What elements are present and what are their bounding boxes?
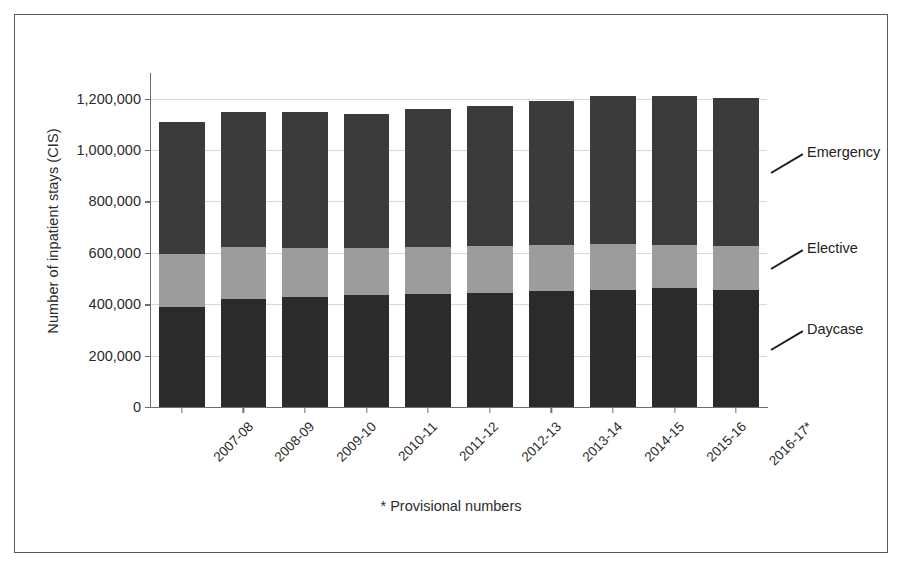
x-tick-label: 2008-09 <box>272 419 318 465</box>
bar-segment-emergency[interactable] <box>159 122 205 254</box>
bar-2016-17[interactable] <box>713 73 759 407</box>
y-tick-mark <box>145 407 151 408</box>
bar-segment-daycase[interactable] <box>652 288 698 407</box>
bar-segment-daycase[interactable] <box>344 295 390 407</box>
bar-segment-elective[interactable] <box>529 245 575 291</box>
leader-line-emergency <box>770 153 803 174</box>
x-tick-mark <box>181 407 182 413</box>
footnote: * Provisional numbers <box>15 498 887 514</box>
y-tick-label: 1,000,000 <box>76 142 141 158</box>
y-tick-label: 1,200,000 <box>76 91 141 107</box>
x-tick-mark <box>489 407 490 413</box>
bar-segment-elective[interactable] <box>713 246 759 290</box>
bar-segment-daycase[interactable] <box>221 299 267 407</box>
bar-2013-14[interactable] <box>529 73 575 407</box>
bar-2009-10[interactable] <box>282 73 328 407</box>
x-tick-label: 2016-17* <box>766 419 815 468</box>
bar-segment-emergency[interactable] <box>344 114 390 248</box>
bar-segment-emergency[interactable] <box>405 109 451 247</box>
y-tick-label: 200,000 <box>89 348 141 364</box>
leader-line-daycase <box>770 330 803 351</box>
y-tick-mark <box>145 150 151 151</box>
bar-segment-emergency[interactable] <box>529 101 575 245</box>
bar-2007-08[interactable] <box>159 73 205 407</box>
x-tick-label: 2007-08 <box>210 419 256 465</box>
bar-2011-12[interactable] <box>405 73 451 407</box>
bar-segment-daycase[interactable] <box>159 307 205 407</box>
y-tick-mark <box>145 356 151 357</box>
y-tick-label: 400,000 <box>89 296 141 312</box>
bar-segment-elective[interactable] <box>467 246 513 292</box>
x-tick-label: 2010-11 <box>395 419 440 464</box>
bar-2014-15[interactable] <box>590 73 636 407</box>
y-tick-mark <box>145 201 151 202</box>
bar-segment-daycase[interactable] <box>405 294 451 407</box>
x-tick-label: 2012-13 <box>518 419 564 465</box>
bar-segment-daycase[interactable] <box>282 297 328 407</box>
plot-area: 0200,000400,000600,000800,0001,000,0001,… <box>151 73 767 407</box>
x-tick-mark <box>551 407 552 413</box>
x-tick-label: 2011-12 <box>456 419 501 464</box>
x-tick-label: 2013-14 <box>580 419 626 465</box>
y-tick-label: 0 <box>133 399 141 415</box>
bar-segment-emergency[interactable] <box>467 106 513 246</box>
series-label-emergency: Emergency <box>807 144 880 160</box>
bar-segment-daycase[interactable] <box>590 290 636 407</box>
series-label-daycase: Daycase <box>807 321 863 337</box>
bar-2012-13[interactable] <box>467 73 513 407</box>
bar-segment-elective[interactable] <box>282 248 328 297</box>
bar-2010-11[interactable] <box>344 73 390 407</box>
series-label-elective: Elective <box>807 240 858 256</box>
y-tick-mark <box>145 99 151 100</box>
x-tick-mark <box>243 407 244 413</box>
leader-line-elective <box>770 249 803 270</box>
chart-figure: Number of inpatient stays (CIS) 0200,000… <box>14 14 888 553</box>
bar-segment-emergency[interactable] <box>590 96 636 244</box>
y-tick-mark <box>145 304 151 305</box>
bar-segment-daycase[interactable] <box>467 293 513 407</box>
bar-segment-elective[interactable] <box>344 248 390 296</box>
bar-2008-09[interactable] <box>221 73 267 407</box>
x-tick-mark <box>736 407 737 413</box>
y-axis-title: Number of inpatient stays (CIS) <box>45 71 61 391</box>
bar-segment-elective[interactable] <box>221 247 267 299</box>
bar-segment-elective[interactable] <box>405 247 451 294</box>
bar-segment-elective[interactable] <box>652 245 698 289</box>
x-tick-mark <box>674 407 675 413</box>
bar-2015-16[interactable] <box>652 73 698 407</box>
bar-segment-emergency[interactable] <box>282 112 328 248</box>
x-tick-label: 2009-10 <box>334 419 380 465</box>
y-tick-label: 600,000 <box>89 245 141 261</box>
x-tick-mark <box>612 407 613 413</box>
bar-segment-daycase[interactable] <box>529 291 575 407</box>
plot-inner: 0200,000400,000600,000800,0001,000,0001,… <box>151 73 767 407</box>
y-tick-label: 800,000 <box>89 193 141 209</box>
x-tick-label: 2015-16 <box>703 419 749 465</box>
x-tick-mark <box>304 407 305 413</box>
x-tick-mark <box>428 407 429 413</box>
bar-segment-daycase[interactable] <box>713 290 759 407</box>
x-tick-mark <box>366 407 367 413</box>
bar-segment-emergency[interactable] <box>221 112 267 248</box>
bar-segment-elective[interactable] <box>590 244 636 290</box>
bar-segment-emergency[interactable] <box>652 96 698 245</box>
x-tick-label: 2014-15 <box>642 419 688 465</box>
bar-segment-emergency[interactable] <box>713 98 759 247</box>
y-tick-mark <box>145 253 151 254</box>
bar-segment-elective[interactable] <box>159 254 205 307</box>
